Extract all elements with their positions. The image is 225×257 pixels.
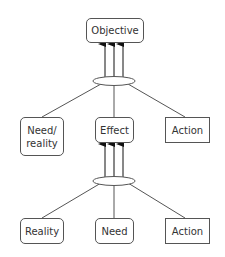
node-label: Objective xyxy=(91,24,138,37)
node-label: Need xyxy=(101,225,127,238)
node-need-reality: Need/ reality xyxy=(20,117,64,156)
node-label: Effect xyxy=(100,124,129,137)
node-objective: Objective xyxy=(86,18,144,43)
node-action-bottom: Action xyxy=(165,218,210,244)
node-action-top: Action xyxy=(165,117,210,143)
node-need: Need xyxy=(95,218,134,244)
node-label: Action xyxy=(172,124,203,137)
and-junction-top xyxy=(93,77,135,86)
node-label: Reality xyxy=(25,225,59,238)
node-effect: Effect xyxy=(95,117,134,143)
node-label: Need/ reality xyxy=(26,124,58,150)
node-reality: Reality xyxy=(20,218,64,244)
node-label: Action xyxy=(172,225,203,238)
and-junction-bottom xyxy=(93,177,135,186)
